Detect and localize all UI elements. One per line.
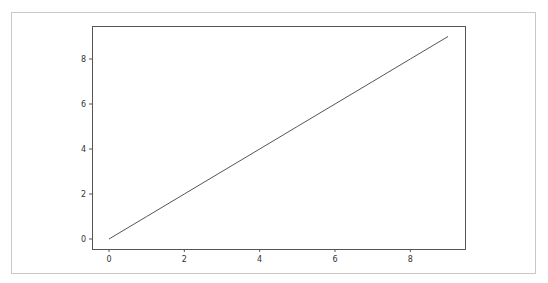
- y-tick-label: 2: [81, 190, 86, 199]
- x-tick-label: 4: [257, 255, 262, 264]
- y-tick-label: 0: [81, 235, 86, 244]
- y-tick-label: 8: [81, 55, 86, 64]
- y-tick-label: 4: [81, 145, 86, 154]
- x-axis-ticks: 02468: [106, 249, 412, 264]
- x-tick-label: 8: [408, 255, 413, 264]
- x-tick-label: 0: [106, 255, 111, 264]
- x-tick-label: 6: [332, 255, 337, 264]
- y-axis-ticks: 02468: [81, 55, 92, 244]
- x-tick-label: 2: [182, 255, 187, 264]
- data-line: [109, 37, 448, 240]
- y-tick-label: 6: [81, 100, 86, 109]
- line-chart: 02468 02468: [0, 0, 548, 283]
